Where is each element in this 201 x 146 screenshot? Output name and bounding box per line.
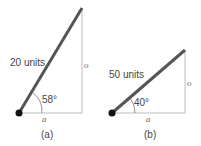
origin-point-a xyxy=(16,110,23,117)
hypotenuse-label-a: 20 units xyxy=(10,57,45,68)
hypotenuse-label-b: 50 units xyxy=(109,69,144,80)
angle-label-a: 58° xyxy=(42,94,57,105)
caption-b: (b) xyxy=(144,129,156,140)
origin-point-b xyxy=(109,110,116,117)
triangle-b: 50 units 40° o a (b) xyxy=(109,50,193,140)
adjacent-label-a: a xyxy=(42,114,47,124)
adjacent-label-b: a xyxy=(146,114,151,124)
triangle-a: 20 units 58° o a (a) xyxy=(10,8,89,140)
caption-a: (a) xyxy=(41,129,53,140)
triangle-diagrams: 20 units 58° o a (a) 50 units 40° o a (b… xyxy=(0,0,201,146)
angle-arc-a xyxy=(32,92,42,113)
opposite-label-a: o xyxy=(84,60,89,70)
opposite-label-b: o xyxy=(187,78,192,88)
angle-label-b: 40° xyxy=(134,97,149,108)
